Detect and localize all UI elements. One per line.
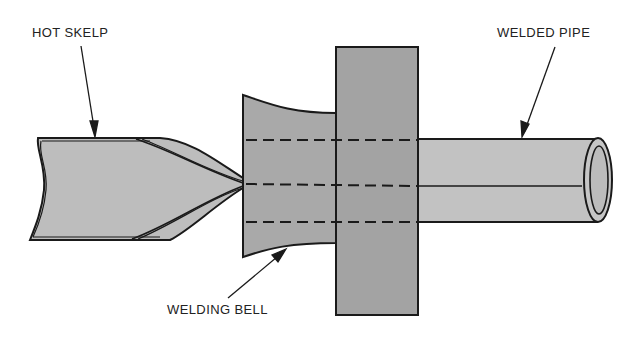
welded-pipe-arrowhead-icon bbox=[521, 121, 529, 137]
pipe-welding-diagram bbox=[0, 0, 642, 340]
welding-bell bbox=[243, 95, 336, 257]
welded-pipe bbox=[418, 138, 612, 222]
welding-bell-label: WELDING BELL bbox=[167, 302, 268, 317]
welded-pipe-label: WELDED PIPE bbox=[497, 25, 590, 40]
hot-skelp-arrowhead-icon bbox=[90, 121, 98, 137]
die-block bbox=[336, 47, 418, 315]
hot-skelp bbox=[30, 138, 243, 240]
welded-pipe-leader bbox=[524, 47, 555, 133]
hot-skelp-label: HOT SKELP bbox=[32, 25, 108, 40]
